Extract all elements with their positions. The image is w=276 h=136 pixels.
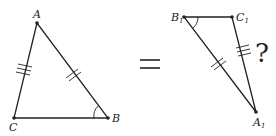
label-b: B: [111, 112, 120, 125]
ac-tick-marks: [16, 64, 32, 75]
left-triangle: [14, 23, 108, 118]
label-a1: A1: [252, 116, 265, 130]
triangle-a1b1c1: [184, 17, 256, 112]
right-triangle: [184, 17, 256, 112]
b1a1-tick-marks: [211, 58, 226, 70]
angle-b1-arc: [193, 17, 198, 28]
question-mark: ?: [255, 38, 269, 68]
equals-sign: [140, 60, 160, 68]
angle-b-arc: [94, 106, 98, 118]
triangle-congruence-diagram: A C B: [0, 0, 276, 136]
label-b1: B1: [170, 11, 184, 25]
label-a: A: [32, 8, 41, 21]
label-c1: C1: [236, 11, 249, 25]
c1a1-tick-marks: [236, 45, 251, 56]
diagram-canvas: A C B: [0, 0, 276, 136]
label-c: C: [9, 121, 18, 134]
